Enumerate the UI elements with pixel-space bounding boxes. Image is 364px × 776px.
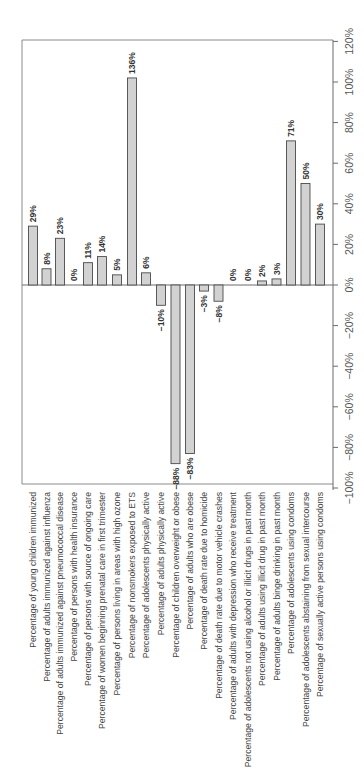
bar-value-label: 30% — [315, 203, 325, 220]
category-label: Percentage of adults physically active — [156, 492, 166, 636]
bar-value-label: −10% — [156, 309, 166, 331]
bar-value-label: 136% — [127, 52, 137, 74]
bar-value-label: 29% — [28, 205, 38, 222]
category-label: Percentage of persons with health insura… — [69, 492, 79, 662]
bar-value-label: −8% — [214, 305, 224, 323]
bar — [142, 273, 151, 285]
axis-tick-label: −20% — [343, 312, 355, 339]
category-label: Percentage of persons living in areas wi… — [112, 492, 122, 696]
bar — [186, 285, 195, 453]
bar-value-label: 23% — [55, 217, 65, 234]
category-label: Percentage of women beginning prenatal c… — [97, 492, 107, 729]
bar — [301, 184, 310, 286]
bar-chart: 120%100%80%60%40%20%0%−20%−40%−60%−80%−1… — [0, 0, 364, 776]
bar-value-label: 6% — [141, 256, 151, 269]
bar-value-label: 3% — [272, 262, 282, 275]
category-label: Percentage of adults binge drinking in p… — [272, 492, 282, 681]
bar — [214, 285, 223, 301]
bar — [200, 285, 209, 291]
axis-tick-label: 20% — [343, 234, 355, 255]
axis-tick-label: 120% — [343, 28, 355, 55]
category-labels: Percentage of young children immunizedPe… — [28, 491, 325, 767]
bar-value-label: 8% — [42, 252, 52, 265]
value-axis: 120%100%80%60%40%20%0%−20%−40%−60%−80%−1… — [333, 28, 355, 505]
bar-value-label: 11% — [83, 242, 93, 259]
axis-tick-label: −40% — [343, 353, 355, 380]
bar-value-label: 14% — [97, 235, 107, 252]
bar — [113, 275, 122, 285]
axis-tick-label: −80% — [343, 434, 355, 461]
axis-tick-label: −60% — [343, 393, 355, 420]
category-label: Percentage of adults immunized against p… — [55, 492, 65, 735]
category-label: Percentage of adolescents not using alco… — [243, 492, 253, 767]
bar-value-label: 71% — [286, 119, 296, 136]
category-label: Percentage of adolescents using condoms — [286, 492, 296, 654]
bar — [287, 141, 296, 285]
category-label: Percentage of adults who are obese — [185, 492, 195, 630]
category-label: Percentage of nonsmokers exposed to ETS — [127, 492, 137, 659]
bar — [29, 226, 38, 285]
bar — [56, 238, 65, 285]
bar — [42, 269, 51, 285]
bar-value-label: −83% — [185, 457, 195, 479]
bar-value-label: 0% — [228, 268, 238, 281]
axis-tick-label: 80% — [343, 112, 355, 133]
bar-value-label: 2% — [257, 264, 267, 277]
bar — [272, 279, 281, 285]
axis-tick-label: 0% — [343, 277, 355, 292]
bar — [98, 257, 107, 285]
category-label: Percentage of adults with depression who… — [228, 491, 238, 719]
bar-value-label: 5% — [112, 258, 122, 271]
category-label: Percentage of persons with source of ong… — [83, 492, 93, 686]
category-label: Percentage of adolescents abstaining fro… — [301, 492, 311, 727]
axis-tick-label: 60% — [343, 153, 355, 174]
bar — [157, 285, 166, 305]
axis-tick-label: 100% — [343, 69, 355, 96]
category-label: Percentage of death rate due to motor ve… — [214, 492, 224, 699]
bar-value-label: −88% — [171, 467, 181, 489]
category-label: Percentage of young children immunized — [28, 492, 38, 648]
category-label: Percentage of children overweight or obe… — [171, 492, 181, 658]
category-label: Percentage of sexually active persons us… — [315, 492, 325, 697]
category-label: Percentage of adolescents physically act… — [141, 492, 151, 658]
bar — [316, 224, 325, 285]
bar — [128, 78, 137, 285]
bar — [84, 263, 93, 285]
bar-value-label: −3% — [199, 295, 209, 313]
axis-tick-label: −100% — [343, 472, 355, 505]
bar-value-label: 50% — [301, 162, 311, 179]
bar — [171, 285, 180, 464]
bar-value-label: 0% — [69, 268, 79, 281]
axis-tick-label: 40% — [343, 193, 355, 214]
category-label: Percentage of death rate due to homicide — [199, 492, 209, 650]
category-label: Percentage of adults using illicit drug … — [257, 492, 267, 686]
bar-value-label: 0% — [243, 268, 253, 281]
bar — [258, 281, 267, 285]
category-label: Percentage of adults immunized against i… — [42, 492, 52, 682]
